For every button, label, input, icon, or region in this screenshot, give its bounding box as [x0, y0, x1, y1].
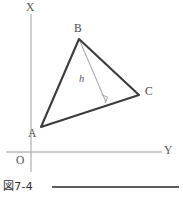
triangle-abc-shape: [41, 39, 139, 127]
figure-container: X Y O A B C h 図7-4: [0, 0, 183, 202]
figure-caption-bar: 図7-4: [0, 176, 183, 202]
figure-caption-text: 図7-4: [3, 177, 33, 193]
figure-caption-rule: [52, 186, 179, 188]
altitude-group: [79, 39, 108, 103]
figure-drawing-canvas: [0, 0, 183, 202]
altitude-line: [79, 39, 106, 102]
axes-group: [6, 14, 162, 172]
triangle-group: [41, 39, 139, 127]
